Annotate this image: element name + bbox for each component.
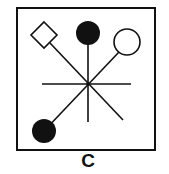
center-point (86, 82, 90, 86)
spoke-diagonal-nw-se (50, 43, 123, 120)
filled-circle-top-icon (76, 21, 100, 45)
star-diagram (0, 0, 169, 174)
diagram-label: C (0, 150, 169, 172)
open-diamond-icon (31, 22, 57, 48)
spoke-diagonal-sw-ne (44, 52, 119, 131)
filled-circle-bottom-left-icon (32, 119, 56, 143)
open-circle-icon (114, 29, 140, 55)
